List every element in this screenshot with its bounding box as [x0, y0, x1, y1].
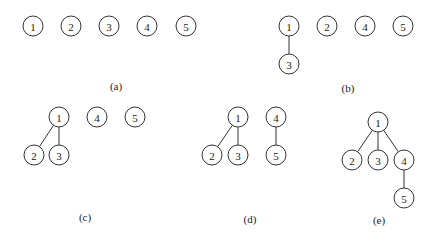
union-find-diagram: 12345(a)13245(b)12345(c)12345(d)12345(e): [0, 0, 435, 236]
panel-e: 12345(e): [342, 112, 414, 227]
node-1: 1: [279, 16, 299, 36]
node-label: 1: [56, 112, 62, 124]
node-1: 1: [368, 112, 388, 132]
panel-d: 12345(d): [202, 107, 286, 226]
node-4: 4: [394, 150, 414, 170]
node-label: 3: [286, 59, 292, 71]
panel-caption: (e): [373, 214, 386, 227]
node-label: 4: [401, 155, 407, 167]
node-label: 3: [235, 150, 241, 162]
node-5: 5: [266, 145, 286, 165]
panel-caption: (c): [79, 211, 92, 224]
node-5: 5: [394, 188, 414, 208]
node-1: 1: [228, 107, 248, 127]
node-4: 4: [266, 107, 286, 127]
node-label: 2: [349, 155, 355, 167]
node-2: 2: [61, 16, 81, 36]
node-3: 3: [99, 16, 119, 36]
node-4: 4: [355, 16, 375, 36]
node-label: 5: [183, 21, 189, 33]
panel-b: 13245(b): [279, 16, 413, 95]
node-2: 2: [202, 145, 222, 165]
node-label: 4: [273, 112, 279, 124]
panel-a: 12345(a): [23, 16, 196, 93]
node-label: 2: [68, 21, 74, 33]
node-label: 3: [106, 21, 112, 33]
node-label: 2: [324, 21, 330, 33]
panel-caption: (a): [110, 80, 123, 93]
node-label: 1: [30, 21, 36, 33]
node-4: 4: [87, 107, 107, 127]
node-label: 1: [235, 112, 241, 124]
node-label: 5: [132, 112, 138, 124]
node-2: 2: [24, 145, 44, 165]
node-label: 4: [94, 112, 100, 124]
node-3: 3: [49, 145, 69, 165]
node-4: 4: [137, 16, 157, 36]
node-label: 5: [273, 150, 279, 162]
edge-1-2: [218, 125, 233, 146]
edge-1-2: [39, 125, 53, 146]
node-label: 1: [286, 21, 292, 33]
node-label: 4: [144, 21, 150, 33]
node-5: 5: [125, 107, 145, 127]
node-label: 3: [56, 150, 62, 162]
node-label: 5: [400, 21, 406, 33]
edge-1-4: [384, 130, 399, 151]
node-1: 1: [49, 107, 69, 127]
node-label: 2: [209, 150, 215, 162]
panel-caption: (d): [244, 213, 257, 226]
node-label: 3: [375, 155, 381, 167]
node-label: 1: [375, 117, 381, 129]
edge-1-2: [358, 130, 373, 151]
panel-c: 12345(c): [24, 107, 145, 224]
node-5: 5: [393, 16, 413, 36]
node-5: 5: [176, 16, 196, 36]
node-1: 1: [23, 16, 43, 36]
node-3: 3: [279, 54, 299, 74]
node-2: 2: [317, 16, 337, 36]
node-label: 4: [362, 21, 368, 33]
node-3: 3: [228, 145, 248, 165]
node-label: 5: [401, 193, 407, 205]
node-3: 3: [368, 150, 388, 170]
panel-caption: (b): [342, 82, 355, 95]
node-2: 2: [342, 150, 362, 170]
node-label: 2: [31, 150, 37, 162]
